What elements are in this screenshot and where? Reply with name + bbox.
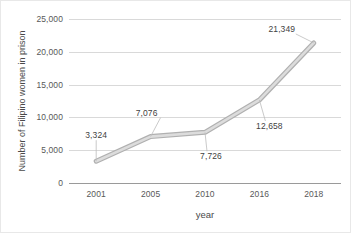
y-tick-label: 0 bbox=[58, 178, 63, 188]
data-label-leader-line bbox=[205, 132, 207, 151]
data-label: 7,726 bbox=[200, 151, 222, 161]
y-tick-label: 15,000 bbox=[36, 80, 63, 90]
y-tick-label: 20,000 bbox=[36, 47, 63, 57]
x-axis-line bbox=[69, 183, 341, 184]
x-tick-label: 2016 bbox=[250, 189, 269, 199]
x-tick-label: 2018 bbox=[304, 189, 323, 199]
x-tick-label: 2005 bbox=[141, 189, 160, 199]
y-tick-label: 5,000 bbox=[41, 145, 63, 155]
y-tick-label: 25,000 bbox=[36, 14, 63, 24]
data-label: 7,076 bbox=[136, 108, 158, 118]
plot-area: 05,00010,00015,00020,00025,000 200120052… bbox=[69, 19, 341, 183]
line-chart-figure: Number of Filipino women in prison 05,00… bbox=[0, 0, 351, 233]
data-label: 12,658 bbox=[256, 121, 283, 131]
data-label-leader-line bbox=[259, 100, 265, 121]
data-label-leader-line bbox=[296, 34, 314, 43]
series-line-core bbox=[96, 43, 314, 161]
x-axis-title: year bbox=[69, 209, 341, 220]
y-axis-title: Number of Filipino women in prison bbox=[15, 19, 29, 183]
y-axis-title-text: Number of Filipino women in prison bbox=[17, 30, 27, 171]
x-tick-label: 2010 bbox=[195, 189, 214, 199]
y-tick-label: 10,000 bbox=[36, 112, 63, 122]
data-label: 21,349 bbox=[268, 24, 295, 34]
x-tick-label: 2001 bbox=[87, 189, 106, 199]
data-label: 3,324 bbox=[85, 130, 107, 140]
series-line-outline bbox=[96, 43, 314, 161]
